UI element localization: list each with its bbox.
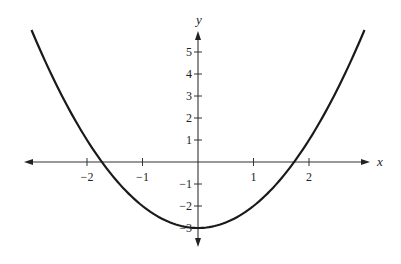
y-tick-label: −2 bbox=[179, 199, 192, 213]
x-tick-label: −2 bbox=[81, 170, 94, 184]
y-tick-label: −1 bbox=[179, 177, 192, 191]
y-tick-label: 1 bbox=[186, 133, 192, 147]
x-tick-label: 1 bbox=[251, 170, 257, 184]
x-axis-left-arrow-icon bbox=[24, 159, 33, 165]
axes: xy bbox=[24, 12, 383, 247]
y-tick-label: 4 bbox=[186, 67, 192, 81]
parabola-plot: xy −2−112−3−2−112345 bbox=[0, 0, 401, 264]
ticks: −2−112−3−2−112345 bbox=[81, 45, 312, 235]
x-tick-label: −1 bbox=[136, 170, 149, 184]
y-axis-label: y bbox=[194, 12, 202, 27]
y-tick-label: 3 bbox=[186, 89, 192, 103]
x-axis-label: x bbox=[376, 154, 383, 169]
x-tick-label: 2 bbox=[306, 170, 312, 184]
x-axis-right-arrow-icon bbox=[361, 159, 370, 165]
y-axis-down-arrow-icon bbox=[195, 238, 201, 247]
y-tick-label: 2 bbox=[186, 111, 192, 125]
y-tick-label: 5 bbox=[186, 45, 192, 59]
y-axis-up-arrow-icon bbox=[195, 31, 201, 40]
